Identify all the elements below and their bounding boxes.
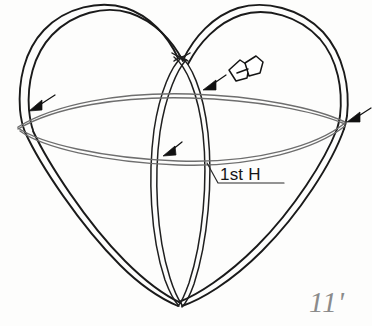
horizontal-loop-1st-h (18, 94, 345, 166)
arrow-center (163, 142, 182, 156)
arrow-left-lobe (29, 95, 55, 111)
figure-number: 11' (309, 286, 345, 318)
wire-heart-diagram: 1st H 11' (0, 0, 372, 326)
first-h-label-group: 1st H (207, 163, 284, 184)
left-lobe (20, 5, 183, 132)
right-lobe (183, 5, 348, 129)
arrow-right-tip (347, 108, 371, 122)
clamp-icon (229, 56, 263, 81)
first-h-label: 1st H (220, 165, 261, 184)
figure-container: 1st H 11' (0, 0, 372, 326)
arrow-clamp (203, 75, 226, 90)
inner-right-loop (174, 55, 210, 307)
inner-left-loop (151, 58, 186, 306)
